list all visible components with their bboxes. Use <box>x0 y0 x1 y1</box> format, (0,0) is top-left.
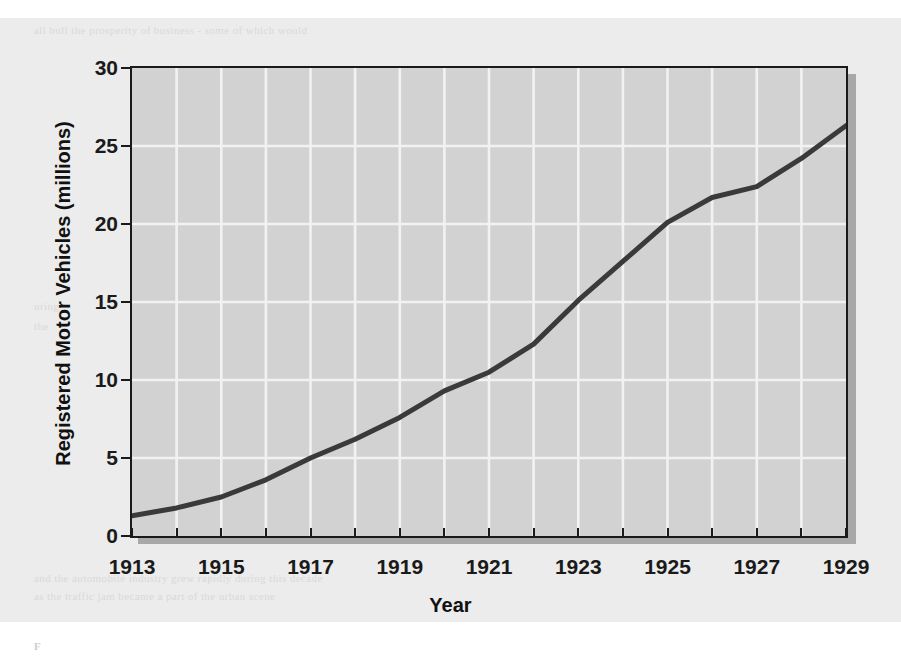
y-tick-mark <box>121 223 130 225</box>
y-tick-label: 15 <box>78 291 118 312</box>
y-tick-mark <box>121 535 130 537</box>
x-tick-mark <box>800 528 802 536</box>
x-tick-label: 1921 <box>449 556 529 577</box>
x-tick-label: 1929 <box>806 556 886 577</box>
x-tick-mark <box>845 528 847 536</box>
x-tick-mark <box>488 528 490 536</box>
y-tick-label: 10 <box>78 369 118 390</box>
x-axis-label: Year <box>0 594 901 617</box>
x-tick-mark <box>443 528 445 536</box>
y-tick-mark <box>121 145 130 147</box>
x-tick-mark <box>711 528 713 536</box>
x-tick-mark <box>310 528 312 536</box>
y-tick-label: 5 <box>78 447 118 468</box>
x-tick-mark <box>577 528 579 536</box>
x-tick-mark <box>399 528 401 536</box>
figure-page: all bull the prosperity of business - so… <box>0 0 901 658</box>
y-tick-mark <box>121 379 130 381</box>
x-tick-mark <box>265 528 267 536</box>
y-tick-label: 20 <box>78 213 118 234</box>
x-tick-mark <box>622 528 624 536</box>
x-tick-label: 1913 <box>92 556 172 577</box>
y-tick-mark <box>121 67 130 69</box>
x-tick-mark <box>131 528 133 536</box>
x-tick-mark <box>176 528 178 536</box>
data-line <box>132 68 846 536</box>
x-tick-mark <box>354 528 356 536</box>
x-tick-label: 1917 <box>271 556 351 577</box>
y-axis-label: Registered Motor Vehicles (millions) <box>52 74 75 514</box>
y-tick-mark <box>121 457 130 459</box>
x-tick-label: 1923 <box>538 556 618 577</box>
x-tick-label: 1915 <box>181 556 261 577</box>
line-chart: 051015202530 191319151917191919211923192… <box>0 0 901 658</box>
y-tick-label: 25 <box>78 135 118 156</box>
x-tick-mark <box>756 528 758 536</box>
plot-area <box>130 66 848 538</box>
x-tick-label: 1927 <box>717 556 797 577</box>
y-tick-mark <box>121 301 130 303</box>
x-tick-mark <box>533 528 535 536</box>
x-tick-label: 1925 <box>628 556 708 577</box>
x-tick-label: 1919 <box>360 556 440 577</box>
y-tick-label: 0 <box>78 525 118 546</box>
y-tick-label: 30 <box>78 57 118 78</box>
x-tick-mark <box>220 528 222 536</box>
x-tick-mark <box>667 528 669 536</box>
